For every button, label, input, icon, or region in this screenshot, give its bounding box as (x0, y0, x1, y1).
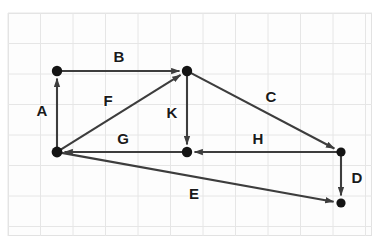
edge-label-d: D (352, 170, 363, 185)
graph-canvas (0, 0, 386, 248)
edge-label-b: B (114, 49, 125, 64)
edge-label-f: F (103, 93, 112, 108)
edge-label-h: H (253, 131, 264, 146)
edge-label-g: G (117, 131, 129, 146)
bottom-right-node (336, 198, 345, 207)
top-left-node (52, 66, 62, 76)
edges-group (57, 71, 341, 202)
right-node (336, 147, 345, 156)
middle-node (182, 147, 192, 157)
edge-label-c: C (266, 89, 277, 104)
edge-label-e: E (189, 186, 199, 201)
diagram-page: ABCDEFGHK (0, 0, 386, 248)
top-middle-node (182, 66, 192, 76)
edge-label-k: K (167, 105, 178, 120)
bottom-left-node (52, 147, 63, 158)
edge-label-a: A (37, 103, 48, 118)
